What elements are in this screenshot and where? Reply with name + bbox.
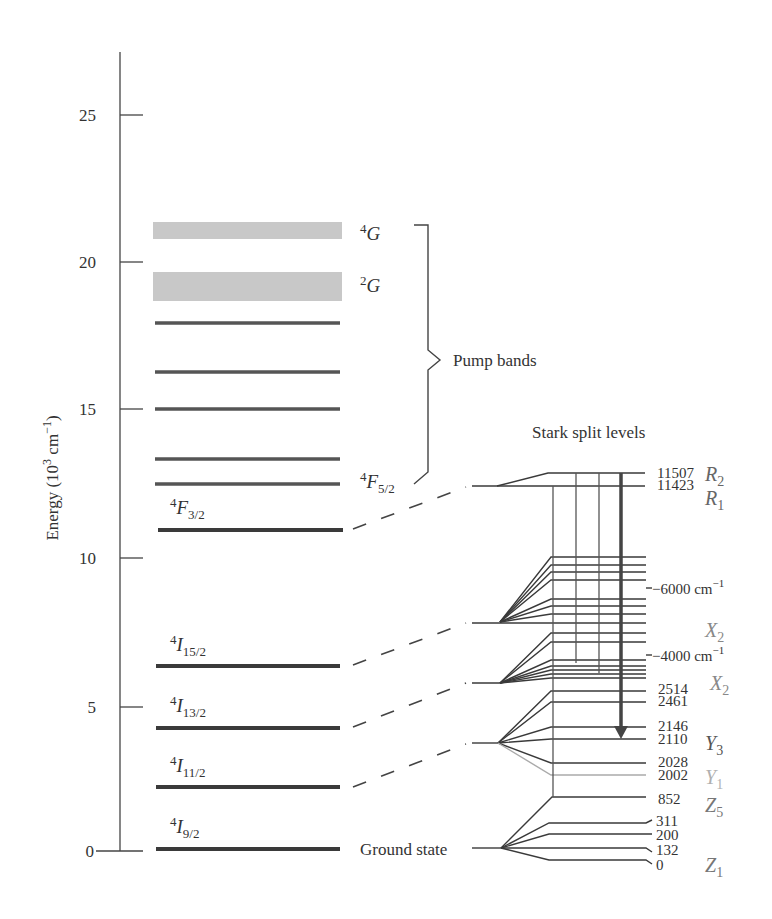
name-X2: X2 [704,619,724,645]
value-label: −6000 cm−1 [652,577,724,597]
transitions [553,473,628,797]
name-X2: X2 [709,672,729,698]
term-label-4I15-2: 4I15/2 [170,632,206,659]
value-label: 2461 [658,693,688,709]
term-label-4F3-2: 4F3/2 [170,495,205,522]
name-R2: R2 [704,463,724,489]
stark-0 [501,848,652,864]
value-label: 852 [658,791,681,807]
term-label-4I13-2: 4I13/2 [170,693,206,720]
term-label-4I11-2: 4I11/2 [170,753,205,780]
term-label-4F5-2: 4F5/2 [360,469,395,496]
name-Y3: Y3 [705,732,723,758]
y-tick-label: 5 [88,698,97,717]
manifolds: 4G 2G 4F5/2 4F3/2 4I15/2 4I13/2 4I11/2 4… [153,221,395,849]
value-label: −4000 cm−1 [652,644,724,664]
y-axis-title: Energy (103 cm−1) [40,415,62,540]
stark-2514 [498,691,646,743]
name-Z5: Z5 [705,794,723,820]
band-4G [153,222,342,239]
name-Y1: Y1 [705,766,723,792]
stark-split-title: Stark split levels [532,423,645,442]
y-tick-label: 10 [79,549,96,568]
y-tick-label: 25 [79,106,96,125]
arrow-down-icon [614,726,628,739]
value-label: 11423 [657,477,694,493]
stark-levels [472,473,652,864]
band-2G [153,272,342,301]
term-label-4G: 4G [360,221,381,244]
energy-level-diagram: 25 20 15 10 5 0 Energy (103 cm−1) 4G 2G … [0,0,772,919]
y-tick-label: 20 [79,253,96,272]
term-label-4I9-2: 4I9/2 [170,814,199,841]
term-label-2G: 2G [360,273,381,296]
value-label: 0 [656,857,664,873]
connector-4F3-2 [353,487,466,529]
stark-132 [501,848,652,852]
ground-state-label: Ground state [360,840,447,859]
name-Z1: Z1 [705,854,723,880]
y-tick-label: 0 [86,842,95,861]
y-tick-label: 15 [79,400,96,419]
y-axis: 25 20 15 10 5 0 Energy (103 cm−1) [40,52,143,861]
pump-bands-label: Pump bands [453,351,537,370]
stark-name-labels: R2 R1 X2 X2 Y3 Y1 Z5 Z1 [704,463,729,880]
value-label: 2110 [658,731,687,747]
value-label: 200 [656,827,679,843]
value-label: 2002 [658,767,688,783]
connector-4I15-2 [353,623,466,665]
value-label: 132 [656,842,679,858]
stark-2028 [498,743,646,763]
pump-bands-bracket: Pump bands [414,225,537,484]
connector-4I11-2 [353,744,466,787]
stark-2110 [498,739,646,743]
stark-R2 [497,473,645,486]
connector-4I13-2 [353,683,466,727]
name-R1: R1 [704,487,724,513]
brace-icon [414,225,440,484]
stark-2002 [498,743,646,775]
dashed-connectors [353,487,466,787]
